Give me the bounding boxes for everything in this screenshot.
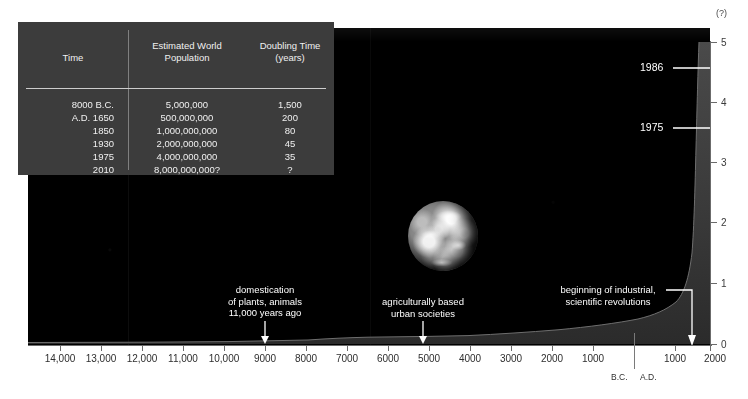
bottom-axis-tick (224, 345, 225, 351)
era-label-ad: A.D. (640, 372, 657, 382)
table-row: 1975 4,000,000,000 35 (18, 150, 334, 163)
table-row: 2010 8,000,000,000? ? (18, 163, 334, 176)
earth-photo (408, 201, 478, 271)
cell-doubling: 80 (246, 124, 334, 137)
annotation-domestication-line2: of plants, animals (200, 296, 330, 308)
bottom-axis-tick (101, 345, 102, 351)
table-header-doubling-line1: Doubling Time (246, 40, 334, 52)
cell-doubling: 45 (246, 137, 334, 150)
era-label-bc: B.C. (611, 372, 628, 382)
earth-cloud-layer (408, 201, 478, 271)
bottom-axis-tick (347, 345, 348, 351)
bottom-axis-tick (552, 345, 553, 351)
population-growth-figure: 1986 1975 domestication of plants, anima… (0, 0, 748, 399)
cell-time: 1850 (18, 124, 128, 137)
right-axis-label-4: 4 (721, 97, 727, 108)
annotation-domestication: domestication of plants, animals 11,000 … (200, 284, 330, 319)
bottom-axis-label: 1000 (664, 353, 686, 364)
right-axis: 5 4 3 2 1 0 (710, 28, 748, 348)
table-header-doubling-line2: (years) (246, 52, 334, 64)
bottom-axis-label: 14,000 (45, 353, 76, 364)
table-header-rule (26, 88, 326, 89)
cell-doubling: 200 (246, 111, 334, 124)
table-header-row: Time Estimated World Population Doubling… (18, 22, 334, 64)
table-row: 1930 2,000,000,000 45 (18, 137, 334, 150)
bottom-axis-label: 2000 (704, 353, 726, 364)
annotation-industrial-leader (666, 286, 698, 345)
bottom-axis-label: 2000 (541, 353, 563, 364)
bottom-axis-label: 6000 (377, 353, 399, 364)
bottom-axis-label: 7000 (336, 353, 358, 364)
bottom-axis-label: 5000 (418, 353, 440, 364)
bottom-axis-tick (183, 345, 184, 351)
table-header-population-line1: Estimated World (128, 40, 246, 52)
cell-population: 4,000,000,000 (128, 150, 246, 163)
right-axis-label-2: 2 (721, 217, 727, 228)
cell-population: 500,000,000 (128, 111, 246, 124)
bottom-axis-tick (710, 345, 711, 351)
bottom-axis-tick (306, 345, 307, 351)
cell-doubling: 1,500 (246, 98, 334, 111)
cell-population: 8,000,000,000? (128, 163, 246, 176)
right-axis-tick (710, 42, 717, 43)
population-data-table: Time Estimated World Population Doubling… (18, 22, 334, 175)
bottom-axis-tick (511, 345, 512, 351)
annotation-domestication-arrow (260, 321, 270, 344)
right-axis-tick (710, 102, 717, 103)
bottom-axis: 14,000 13,000 12,000 11,000 10,000 9000 … (0, 345, 748, 399)
bottom-axis-label: 13,000 (86, 353, 117, 364)
annotation-urban-line1: agriculturally based (355, 296, 491, 308)
bottom-axis-label: 3000 (500, 353, 522, 364)
cell-time: A.D. 1650 (18, 111, 128, 124)
bottom-axis-tick (388, 345, 389, 351)
bottom-axis-label: 11,000 (168, 353, 198, 364)
cell-time: 1930 (18, 137, 128, 150)
callout-arrow-1975 (673, 120, 710, 136)
era-divider-line (634, 333, 635, 369)
annotation-domestication-line1: domestication (200, 284, 330, 296)
callout-label-1986: 1986 (640, 61, 663, 73)
bottom-axis-tick (470, 345, 471, 351)
annotation-domestication-line3: 11,000 years ago (200, 307, 330, 319)
bottom-axis-line (28, 345, 712, 346)
table-row: 1850 1,000,000,000 80 (18, 124, 334, 137)
right-axis-query-label: (?) (716, 8, 727, 18)
table-row: A.D. 1650 500,000,000 200 (18, 111, 334, 124)
right-axis-tick (710, 283, 717, 284)
right-axis-tick (710, 222, 717, 223)
bottom-axis-tick (265, 345, 266, 351)
cell-doubling: ? (246, 163, 334, 176)
cell-time: 1975 (18, 150, 128, 163)
cell-population: 2,000,000,000 (128, 137, 246, 150)
right-axis-label-5: 5 (721, 37, 727, 48)
callout-arrow-1986 (673, 60, 710, 76)
bottom-axis-label: 1000 (582, 353, 604, 364)
table-header-doubling: Doubling Time (years) (246, 40, 334, 64)
right-axis-label-1: 1 (721, 278, 727, 289)
bottom-axis-label: 12,000 (127, 353, 158, 364)
cell-population: 5,000,000 (128, 98, 246, 111)
cell-time: 8000 B.C. (18, 98, 128, 111)
bottom-axis-tick (593, 345, 594, 351)
annotation-industrial-revolution: beginning of industrial, scientific revo… (528, 284, 688, 307)
annotation-industrial-line2: scientific revolutions (528, 296, 688, 308)
table-header-population-line2: Population (128, 52, 246, 64)
table-row: 8000 B.C. 5,000,000 1,500 (18, 98, 334, 111)
table-header-time: Time (18, 40, 128, 64)
bottom-axis-label: 8000 (295, 353, 317, 364)
bottom-axis-tick (142, 345, 143, 351)
annotation-urban-arrow (418, 321, 428, 344)
bottom-axis-label: 9000 (254, 353, 276, 364)
right-axis-label-3: 3 (721, 157, 727, 168)
bottom-axis-tick (429, 345, 430, 351)
bottom-axis-tick (675, 345, 676, 351)
cell-time: 2010 (18, 163, 128, 176)
annotation-industrial-line1: beginning of industrial, (528, 284, 688, 296)
bottom-axis-tick (60, 345, 61, 351)
annotation-urban-societies: agriculturally based urban societies (355, 296, 491, 319)
bottom-axis-label: 10,000 (209, 353, 240, 364)
bottom-axis-label: 4000 (459, 353, 481, 364)
cell-doubling: 35 (246, 150, 334, 163)
right-axis-line (710, 41, 711, 345)
table-body: 8000 B.C. 5,000,000 1,500 A.D. 1650 500,… (18, 98, 334, 176)
